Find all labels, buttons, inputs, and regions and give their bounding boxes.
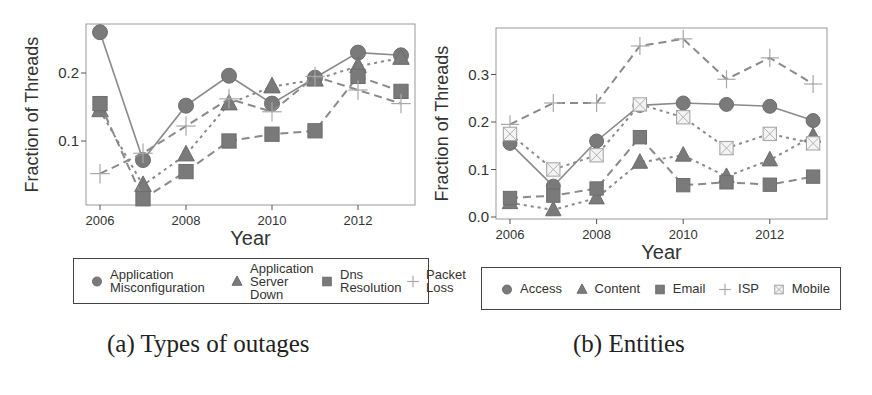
circle-icon (90, 274, 104, 288)
triangle-glyph (577, 283, 587, 292)
plus-marker (176, 116, 196, 135)
legend-item-content: Content (575, 282, 641, 296)
x-axis: 2006200820102012 (86, 205, 373, 228)
x-tick-label: 2006 (496, 227, 525, 242)
plus-icon (406, 274, 420, 288)
y-tick-label: 0.1 (468, 161, 489, 178)
legend-label: Access (520, 282, 562, 295)
y-axis-title: Fraction of Threads (22, 37, 42, 193)
circle-icon (500, 282, 514, 296)
square-marker (677, 179, 690, 192)
plus-glyph (407, 276, 419, 288)
legend-item-access: Access (500, 282, 562, 296)
legend-label: Mobile (792, 282, 830, 295)
y-tick-label: 0.1 (58, 132, 79, 149)
boxed-x-marker (806, 137, 819, 150)
plus-marker (674, 30, 692, 48)
y-tick-label: 0.3 (468, 66, 489, 83)
triangle-marker (676, 147, 691, 162)
circle-marker (93, 25, 108, 40)
plot-area (496, 28, 827, 219)
legend-label: Application Server Down (250, 262, 312, 301)
plus-marker (717, 70, 735, 88)
y-axis: 0.10.2 (58, 64, 86, 149)
boxed-x-glyph (774, 285, 783, 294)
circle-marker (222, 68, 237, 83)
boxed-x-marker (763, 127, 776, 140)
square-marker (308, 124, 322, 138)
square-glyph (323, 277, 332, 286)
panel-types-of-outages: 0.10.22006200820102012YearFraction of Th… (0, 0, 440, 395)
plus-marker (90, 164, 110, 184)
boxed-x-marker (547, 163, 560, 176)
square-marker (806, 170, 819, 183)
square-marker (93, 96, 107, 110)
legend-item-email: Email (653, 282, 706, 296)
triangle-marker (762, 151, 777, 166)
boxed-x-marker (590, 149, 603, 162)
legend-label: Application Misconfiguration (110, 268, 222, 294)
circle-marker (806, 114, 820, 128)
y-tick-label: 0.0 (468, 208, 489, 225)
y-tick-label: 0.2 (468, 113, 489, 130)
x-axis-title: Year (641, 241, 682, 263)
series-application-misconfiguration (93, 25, 409, 168)
plus-marker (219, 89, 239, 109)
legend-item-mobile: Mobile (772, 282, 830, 296)
x-tick-label: 2008 (172, 213, 201, 228)
circle-marker (720, 97, 734, 111)
plus-marker (544, 94, 562, 112)
x-tick-label: 2006 (86, 213, 115, 228)
legend-label: ISP (738, 282, 759, 295)
x-axis-title: Year (230, 227, 271, 249)
plus-glyph (719, 283, 731, 295)
x-tick-label: 2012 (755, 227, 784, 242)
legend-item-dns-resolution: Dns Resolution (320, 268, 398, 294)
legend-types-of-outages: Application MisconfigurationApplication … (73, 258, 429, 304)
circle-marker (590, 134, 604, 148)
x-tick-label: 2012 (344, 213, 373, 228)
square-marker (222, 134, 236, 148)
y-axis: 0.00.10.20.3 (468, 66, 496, 226)
triangle-marker (264, 77, 281, 93)
legend-label: Email (673, 282, 706, 295)
boxed-x-icon (772, 282, 786, 296)
legend-label: Content (595, 282, 641, 295)
boxed-x-marker (720, 141, 733, 154)
boxed-x-marker (633, 98, 646, 111)
square-marker (633, 131, 646, 144)
triangle-icon (230, 274, 244, 288)
square-marker (179, 164, 193, 178)
boxed-x-marker (503, 127, 516, 140)
square-marker (590, 182, 603, 195)
square-marker (547, 189, 560, 202)
circle-marker (676, 96, 690, 110)
square-marker (136, 192, 150, 206)
circle-glyph (503, 285, 512, 294)
x-tick-label: 2010 (669, 227, 698, 242)
legend-item-isp: ISP (718, 282, 759, 296)
chart-entities: 0.00.10.20.32006200820102012YearFraction… (440, 0, 872, 260)
legend-item-application-misconfiguration: Application Misconfiguration (90, 268, 222, 294)
chart-types-of-outages: 0.10.22006200820102012YearFraction of Th… (0, 0, 440, 250)
y-tick-label: 0.2 (58, 64, 79, 81)
caption-types-of-outages: (a) Types of outages (107, 330, 310, 358)
triangle-marker (632, 154, 647, 169)
triangle-marker (135, 176, 152, 192)
plus-marker (761, 49, 779, 67)
x-axis: 2006200820102012 (496, 219, 785, 242)
plus-marker (804, 75, 822, 93)
x-tick-label: 2010 (258, 213, 287, 228)
plus-marker (631, 37, 649, 55)
legend-label: Dns Resolution (340, 268, 398, 294)
y-axis-title: Fraction of Threads (432, 46, 452, 202)
square-marker (265, 127, 279, 141)
circle-glyph (93, 277, 102, 286)
boxed-x-marker (677, 111, 690, 124)
square-marker (763, 178, 776, 191)
x-tick-label: 2008 (582, 227, 611, 242)
square-marker (720, 176, 733, 189)
plus-icon (718, 282, 732, 296)
triangle-glyph (232, 276, 242, 285)
legend-entities: AccessContentEmailISPMobile (481, 267, 841, 310)
